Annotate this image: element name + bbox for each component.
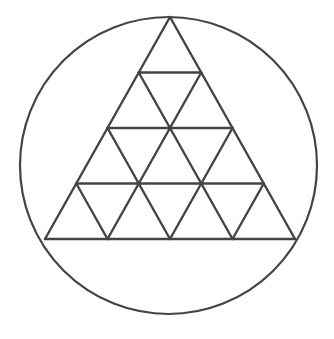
right-parallel-grid-line — [139, 73, 233, 240]
right-parallel-grid-line — [76, 184, 107, 240]
triangle-grid — [45, 17, 295, 239]
triangle-in-circle-diagram — [0, 0, 334, 339]
outer-circle — [20, 17, 317, 314]
left-parallel-grid-line — [108, 73, 202, 240]
left-parallel-grid-line — [233, 184, 264, 240]
